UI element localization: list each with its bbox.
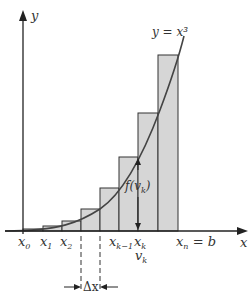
bar-6 [119, 157, 138, 231]
x-tick-labels: x0 x1 x2 xk−1 xk xn = b [18, 234, 216, 251]
delta-x-label: Δx [83, 280, 99, 294]
tick-xk-1: xk−1 [109, 234, 133, 251]
height-label: f(vk) [124, 179, 151, 195]
tick-x1: x1 [40, 234, 52, 251]
delta-x-arrow-right-icon [74, 284, 81, 290]
x-axis-arrow-icon [237, 227, 248, 235]
curve-label: y = x³ [151, 25, 188, 39]
x-axis-label: x [240, 235, 248, 250]
tick-xn: xn = b [176, 234, 216, 251]
delta-x-arrow-left-icon [100, 284, 107, 290]
bar-8 [158, 55, 178, 231]
bar-7 [138, 113, 158, 231]
rectangles [23, 55, 178, 231]
riemann-sum-diagram: y x y = x³ f(vk) x0 x1 x2 xk−1 xk xn = b… [0, 0, 252, 297]
y-axis-arrow-icon [19, 10, 27, 21]
tick-x0: x0 [18, 234, 30, 251]
bar-4 [81, 209, 100, 231]
y-axis-label: y [30, 8, 39, 23]
tick-x2: x2 [60, 234, 72, 251]
